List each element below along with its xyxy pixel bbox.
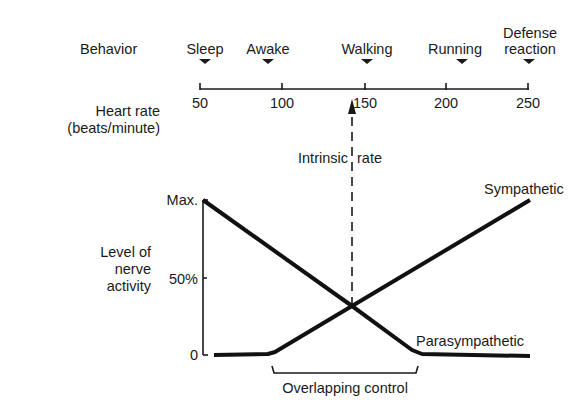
- hr-axis-label-line2: (beats/minute): [40, 120, 160, 136]
- hr-tick-50: 50: [180, 95, 220, 111]
- behavior-defense-line1: Defense: [490, 25, 570, 41]
- marker-defense-icon: [523, 59, 535, 64]
- marker-running-icon: [456, 59, 468, 64]
- behavior-defense-line2: reaction: [490, 41, 570, 57]
- overlapping-control-label: Overlapping control: [255, 380, 435, 396]
- marker-sleep-icon: [199, 59, 211, 64]
- nerve-activity-axis: [203, 200, 208, 355]
- behavior-markers: [199, 59, 535, 64]
- intrinsic-rate-arrow: [348, 99, 356, 306]
- hr-tick-250: 250: [508, 95, 548, 111]
- heart-rate-axis: [200, 83, 529, 90]
- behavior-sleep: Sleep: [178, 41, 232, 57]
- diagram-canvas: [0, 0, 585, 414]
- y-axis-label-line3: activity: [60, 278, 151, 294]
- intrinsic-label-right: rate: [357, 150, 382, 166]
- overlap-bracket: [272, 366, 418, 373]
- behavior-awake: Awake: [237, 41, 299, 57]
- y-tick-0: 0: [170, 347, 198, 363]
- intrinsic-label-left: Intrinsic: [260, 150, 348, 166]
- y-tick-50: 50%: [150, 271, 198, 287]
- marker-awake-icon: [262, 59, 274, 64]
- parasympathetic-label: Parasympathetic: [416, 333, 524, 349]
- marker-walking-icon: [361, 59, 373, 64]
- y-tick-max: Max.: [130, 192, 198, 208]
- behavior-running: Running: [420, 41, 490, 57]
- hr-tick-100: 100: [262, 95, 302, 111]
- sympathetic-label: Sympathetic: [484, 181, 564, 197]
- behavior-label: Behavior: [80, 41, 137, 57]
- hr-axis-label-line1: Heart rate: [60, 103, 160, 119]
- y-axis-label-line2: nerve: [60, 261, 151, 277]
- hr-tick-200: 200: [426, 95, 466, 111]
- hr-tick-150: 150: [345, 95, 385, 111]
- behavior-walking: Walking: [332, 41, 402, 57]
- y-axis-label-line1: Level of: [60, 244, 151, 260]
- sympathetic-curve: [214, 200, 530, 355]
